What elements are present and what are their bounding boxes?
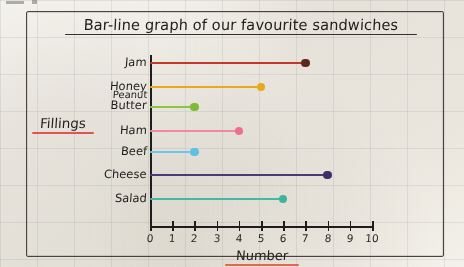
x-tick-5 [261, 221, 263, 231]
y-axis-line [150, 55, 152, 227]
x-tick-0 [150, 221, 152, 231]
x-tick-2 [194, 221, 196, 231]
x-tick-1 [172, 221, 174, 231]
bar-endpoint-dot-cheese [323, 171, 331, 179]
x-tick-7 [305, 221, 307, 231]
x-tick-label-5: 5 [257, 232, 265, 244]
x-tick-4 [239, 221, 241, 231]
bar-endpoint-dot-ham [235, 127, 243, 135]
bar-endpoint-dot-jam [301, 59, 309, 67]
bar-line-beef [150, 151, 194, 154]
x-axis-title-block: Number [200, 245, 324, 266]
bar-endpoint-dot-peanut-butter [190, 103, 198, 111]
x-tick-label-8: 8 [324, 232, 332, 244]
x-tick-label-1: 1 [168, 232, 176, 244]
category-label-line-2: Butter [110, 100, 147, 111]
bar-line-jam [150, 62, 305, 65]
x-tick-label-9: 9 [346, 232, 354, 244]
bar-line-ham [150, 130, 239, 133]
bar-endpoint-dot-salad [279, 195, 287, 203]
category-label-beef: Beef [120, 144, 147, 158]
category-label-ham: Ham [120, 123, 148, 137]
y-axis-title-underline [32, 132, 94, 134]
x-axis-title-underline [225, 264, 299, 266]
bar-endpoint-dot-beef [190, 148, 198, 156]
bar-line-salad [150, 198, 283, 201]
x-tick-10 [372, 221, 374, 231]
x-tick-label-2: 2 [191, 232, 199, 244]
y-axis-title: Fillings [39, 115, 86, 131]
category-label-jam: Jam [125, 55, 148, 69]
x-axis-title: Number [235, 248, 288, 263]
category-label-peanut-butter: PeanutButter [110, 89, 148, 111]
x-tick-6 [283, 221, 285, 231]
x-tick-label-0: 0 [146, 232, 154, 244]
x-tick-label-3: 3 [213, 232, 221, 244]
x-tick-8 [328, 221, 330, 231]
category-label-salad: Salad [115, 191, 148, 205]
x-tick-9 [350, 221, 352, 231]
bar-line-cheese [150, 174, 328, 177]
x-tick-label-7: 7 [302, 232, 310, 244]
category-label-cheese: Cheese [104, 167, 148, 181]
x-tick-label-4: 4 [235, 232, 243, 244]
x-tick-label-10: 10 [365, 232, 379, 244]
bar-line-honey [150, 86, 261, 89]
bar-endpoint-dot-honey [257, 83, 265, 91]
y-axis-title-block: Fillings [26, 113, 100, 134]
bar-line-peanut-butter [150, 106, 194, 109]
x-tick-3 [217, 221, 219, 231]
x-tick-label-6: 6 [279, 232, 287, 244]
